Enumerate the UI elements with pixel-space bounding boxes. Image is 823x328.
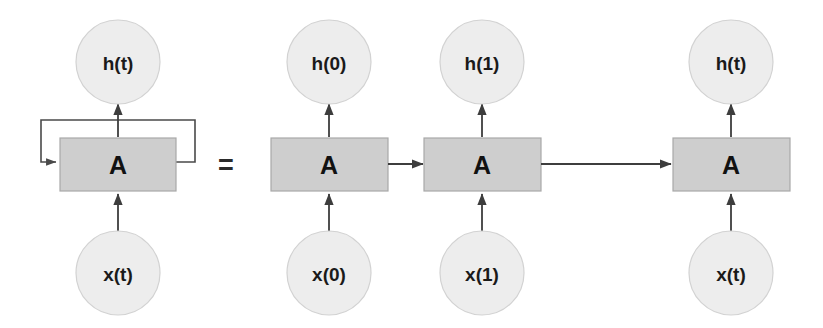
equals-sign: =	[218, 150, 234, 180]
folded-rnn-group: h(t) A x(t)	[41, 20, 195, 315]
folded-input-label: x(t)	[103, 264, 133, 285]
step-1-output-label: h(1)	[465, 53, 500, 74]
rnn-diagram-canvas: h(t) A x(t) = h(0) A x(0)	[0, 0, 823, 328]
step-t-input-label: x(t)	[716, 264, 746, 285]
step-0-cell-label: A	[320, 151, 338, 179]
step-0-input-label: x(0)	[312, 264, 346, 285]
folded-cell-label: A	[109, 151, 127, 179]
step-t-output-label: h(t)	[716, 53, 747, 74]
step-t-cell-label: A	[722, 151, 740, 179]
unrolled-step-0-group: h(0) A x(0)	[271, 20, 388, 315]
unrolled-step-t-group: h(t) A x(t)	[673, 20, 790, 315]
folded-output-label: h(t)	[103, 53, 134, 74]
step-1-cell-label: A	[473, 151, 491, 179]
unrolled-step-1-group: h(1) A x(1)	[424, 20, 541, 315]
step-1-input-label: x(1)	[465, 264, 499, 285]
step-0-output-label: h(0)	[312, 53, 347, 74]
rnn-diagram: h(t) A x(t) = h(0) A x(0)	[0, 0, 823, 328]
